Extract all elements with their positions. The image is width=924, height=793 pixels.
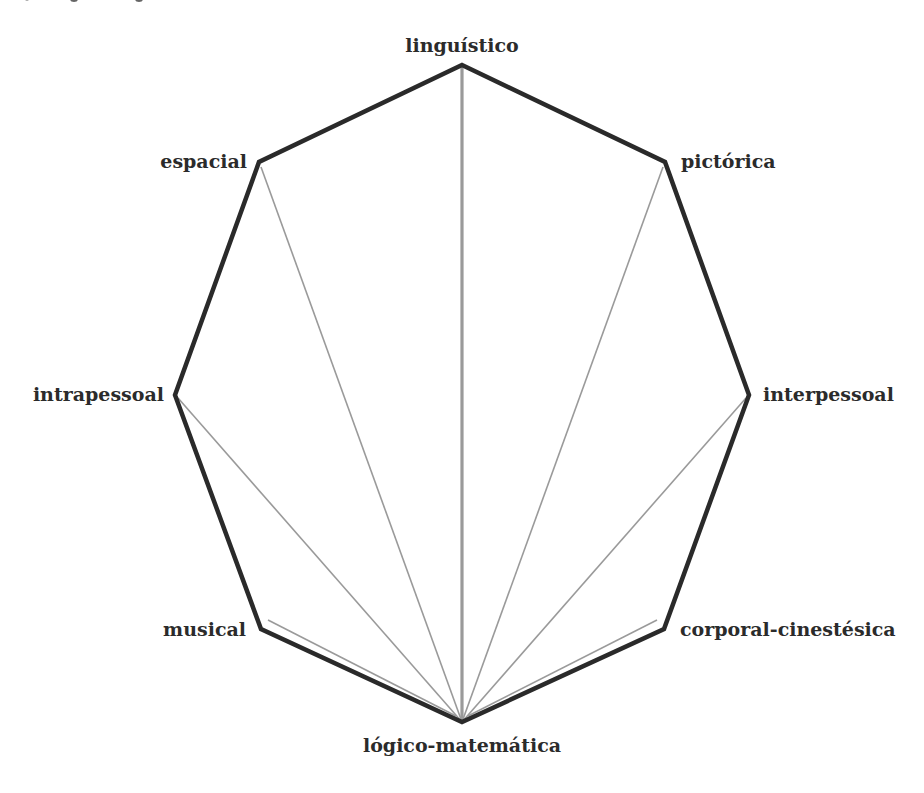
label-espacial: espacial xyxy=(160,150,247,172)
label-corporal-cinestesica: corporal-cinestésica xyxy=(680,618,896,640)
intelligences-octagon-diagram: linguístico pictórica interpessoal corpo… xyxy=(0,0,924,793)
label-intrapessoal: intrapessoal xyxy=(33,383,164,405)
spoke-intrapessoal xyxy=(178,398,462,722)
spokes xyxy=(178,67,746,722)
label-logico-matematica: lógico-matemática xyxy=(363,734,561,756)
spoke-interpessoal xyxy=(462,398,746,722)
node-labels: linguístico pictórica interpessoal corpo… xyxy=(33,34,896,756)
label-interpessoal: interpessoal xyxy=(763,383,894,405)
label-musical: musical xyxy=(163,618,246,640)
spoke-musical xyxy=(268,620,456,716)
label-pictorica: pictórica xyxy=(681,150,776,172)
label-linguistico: linguístico xyxy=(405,34,519,56)
cropped-top-text xyxy=(25,0,144,2)
spoke-corporal xyxy=(468,620,657,716)
spoke-pictorica xyxy=(462,167,663,722)
spoke-espacial xyxy=(261,167,462,722)
